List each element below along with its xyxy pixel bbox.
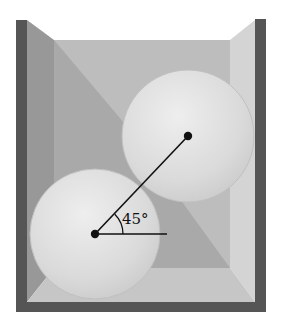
angle-label: 45°	[122, 210, 149, 228]
left-outer-wall	[16, 20, 27, 312]
lower-center-dot	[91, 230, 99, 238]
right-outer-wall	[255, 19, 266, 312]
bottom-outer-wall	[16, 302, 266, 312]
box-with-spheres-diagram: 45°	[0, 0, 283, 329]
upper-center-dot	[184, 132, 192, 140]
